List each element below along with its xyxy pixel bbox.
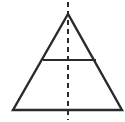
geometry-figure-svg — [0, 0, 125, 122]
figure-canvas — [0, 0, 125, 122]
